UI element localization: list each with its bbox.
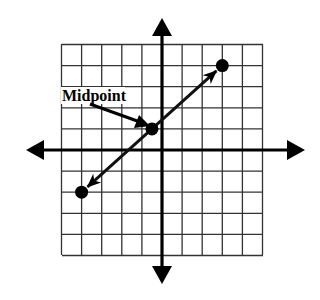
x-axis-left-arrow-icon (26, 140, 44, 160)
point-endpoint-b (216, 59, 229, 72)
midpoint-label: Midpoint (62, 87, 127, 105)
x-axis-right-arrow-icon (287, 140, 305, 160)
y-axis-down-arrow-icon (152, 266, 172, 284)
coordinate-plane-figure: Midpoint (0, 0, 320, 300)
pointer-arrow-line (90, 104, 140, 122)
point-endpoint-a (75, 186, 88, 199)
coordinate-plane-svg: Midpoint (0, 0, 320, 300)
y-axis-up-arrow-icon (152, 18, 172, 36)
